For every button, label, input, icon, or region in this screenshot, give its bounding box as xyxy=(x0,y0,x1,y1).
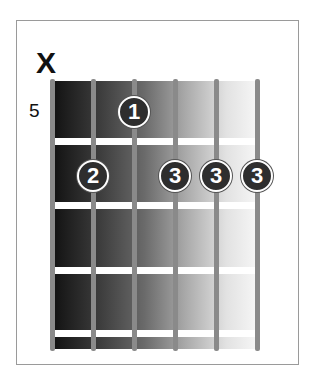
fret-line-3 xyxy=(52,267,257,274)
fret-line-2 xyxy=(52,202,257,209)
string-6 xyxy=(255,79,260,351)
finger-dot: 3 xyxy=(200,160,232,192)
string-1 xyxy=(50,79,55,351)
string-5 xyxy=(214,79,219,351)
finger-dot: 3 xyxy=(241,160,273,192)
finger-dot: 1 xyxy=(118,96,150,128)
string-2 xyxy=(91,79,96,351)
fretboard xyxy=(52,81,257,349)
finger-dot: 3 xyxy=(159,160,191,192)
muted-string-marker: X xyxy=(36,48,56,78)
finger-dot: 2 xyxy=(77,160,109,192)
start-fret-number: 5 xyxy=(29,100,40,122)
fret-line-1 xyxy=(52,138,257,145)
fret-line-4 xyxy=(52,330,257,337)
string-4 xyxy=(173,79,178,351)
